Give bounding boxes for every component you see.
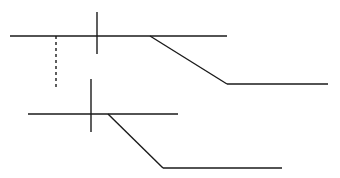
line-diagram [0,0,340,178]
upper-track [10,12,328,88]
upper-diagonal [150,36,227,84]
lower-diagonal [108,114,163,168]
lower-track [28,79,282,168]
